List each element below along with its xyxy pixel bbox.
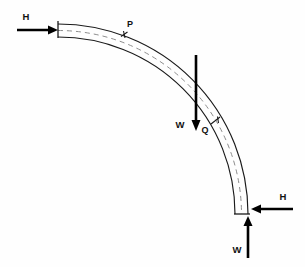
- force-w-middle-label: W: [175, 119, 184, 130]
- force-w-bottom-label: W: [232, 244, 241, 255]
- force-h-top-label: H: [22, 11, 29, 22]
- figure-background: [0, 0, 305, 267]
- force-h-bottom-label: H: [279, 191, 286, 202]
- diagram-canvas: H W H W P Q: [0, 0, 305, 267]
- curved-beam-figure: H W H W P Q: [0, 0, 305, 267]
- point-q-label: Q: [201, 125, 208, 135]
- point-p-label: P: [127, 19, 133, 29]
